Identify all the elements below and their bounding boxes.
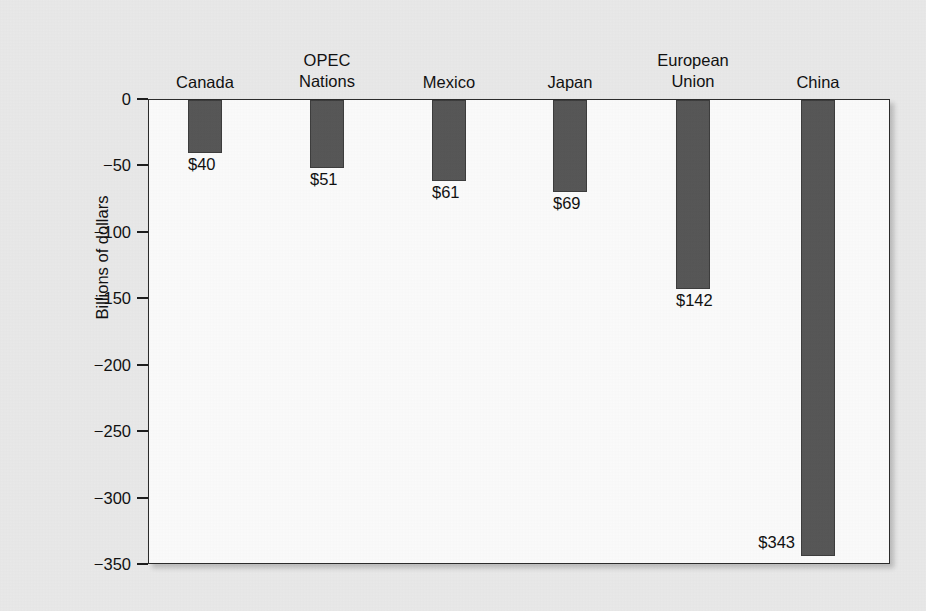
bar-category-label: China bbox=[796, 72, 839, 93]
bar-rect[interactable] bbox=[432, 100, 466, 181]
bar-value-label: $142 bbox=[676, 290, 713, 310]
bar-group-china[interactable]: China $343 bbox=[801, 100, 835, 565]
bar-value-label: $51 bbox=[310, 169, 338, 189]
bar-value-label: $61 bbox=[432, 182, 460, 202]
y-axis-tick-mark bbox=[137, 430, 148, 432]
bar-category-line1: Japan bbox=[548, 73, 593, 91]
bar-rect[interactable] bbox=[801, 100, 835, 556]
bar-rect[interactable] bbox=[676, 100, 710, 289]
bar-chart-figure: Billions of dollars 0 −50 −100 −150 −200… bbox=[0, 0, 926, 611]
y-axis-title: Billions of dollars bbox=[93, 148, 112, 368]
y-axis-tick-label: −250 bbox=[94, 420, 131, 442]
plot-area: Canada $40 OPEC Nations $51 Mexico $61 bbox=[148, 99, 890, 564]
bar-category-line1: OPEC bbox=[304, 51, 351, 69]
bar-value-label: $40 bbox=[188, 154, 216, 174]
bar-category-line1: Mexico bbox=[423, 73, 475, 91]
bar-group-mexico[interactable]: Mexico $61 bbox=[432, 100, 466, 565]
y-axis-tick-mark bbox=[137, 297, 148, 299]
y-axis-tick-label: −50 bbox=[103, 154, 131, 176]
bar-category-label: OPEC Nations bbox=[272, 50, 382, 92]
bar-group-japan[interactable]: Japan $69 bbox=[553, 100, 587, 565]
bar-rect[interactable] bbox=[188, 100, 222, 153]
bar-category-label: Mexico bbox=[423, 72, 475, 93]
y-axis-tick-label: 0 bbox=[122, 88, 131, 110]
y-axis-tick-label: −350 bbox=[94, 553, 131, 575]
y-axis-tick-label: −150 bbox=[94, 287, 131, 309]
bar-value-label: $69 bbox=[553, 193, 581, 213]
bar-category-line2: Nations bbox=[299, 72, 355, 90]
bar-group-opec-nations[interactable]: OPEC Nations $51 bbox=[310, 100, 344, 565]
bar-category-label: Canada bbox=[176, 72, 234, 93]
y-axis-tick-mark bbox=[137, 164, 148, 166]
bar-value-label: $343 bbox=[758, 532, 795, 552]
bar-rect[interactable] bbox=[310, 100, 344, 168]
y-axis-tick-mark bbox=[137, 563, 148, 565]
bar-category-line1: China bbox=[796, 73, 839, 91]
bar-category-line2: Union bbox=[671, 72, 714, 90]
y-axis-tick-mark bbox=[137, 497, 148, 499]
bar-rect[interactable] bbox=[553, 100, 587, 192]
bar-category-line1: European bbox=[657, 51, 729, 69]
bar-group-european-union[interactable]: European Union $142 bbox=[676, 100, 710, 565]
y-axis-tick-label: −100 bbox=[94, 221, 131, 243]
y-axis-tick-mark bbox=[137, 364, 148, 366]
bar-category-label: Japan bbox=[548, 72, 593, 93]
y-axis-tick-label: −200 bbox=[94, 354, 131, 376]
bar-category-line1: Canada bbox=[176, 73, 234, 91]
y-axis-tick-mark bbox=[137, 231, 148, 233]
y-axis-tick-label: −300 bbox=[94, 487, 131, 509]
y-axis-tick-mark bbox=[137, 98, 148, 100]
bar-category-label: European Union bbox=[638, 50, 748, 92]
bar-group-canada[interactable]: Canada $40 bbox=[188, 100, 222, 565]
